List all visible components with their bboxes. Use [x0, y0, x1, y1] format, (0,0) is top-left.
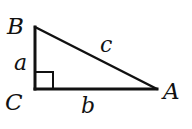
- side-label-b: b: [81, 95, 95, 117]
- right-angle-marker: [35, 72, 53, 89]
- triangle-svg: [0, 0, 192, 129]
- side-label-c: c: [100, 34, 112, 56]
- side-label-a: a: [14, 52, 27, 74]
- vertex-label-a: A: [163, 80, 180, 103]
- vertex-label-c: C: [5, 91, 23, 114]
- vertex-label-b: B: [7, 15, 24, 38]
- right-triangle-diagram: B C A a b c: [0, 0, 192, 129]
